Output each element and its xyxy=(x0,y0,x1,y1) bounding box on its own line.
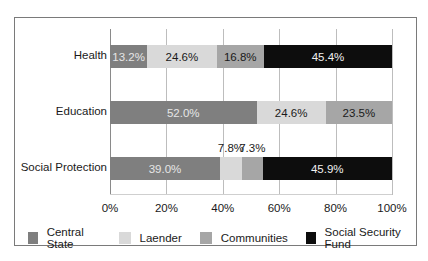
legend-swatch-social-security-fund xyxy=(306,232,316,244)
bar-segment-communities: 23.5% xyxy=(326,101,392,124)
x-tick-label: 100% xyxy=(377,202,406,214)
x-tick-label: 60% xyxy=(268,202,291,214)
legend-label: Central State xyxy=(47,226,101,250)
bar-segment-laender xyxy=(220,157,242,180)
bar-segment-central-state: 13.2% xyxy=(110,45,147,68)
stacked-bar: 13.2%24.6%16.8%45.4% xyxy=(110,45,392,68)
stacked-bar: 52.0%24.6%23.5% xyxy=(110,101,392,124)
x-axis-baseline xyxy=(110,194,392,195)
category-label: Health xyxy=(74,49,107,61)
bar-segment-communities: 16.8% xyxy=(217,45,264,68)
legend-item-communities: Communities xyxy=(200,232,288,244)
bar-segment-laender: 24.6% xyxy=(257,101,326,124)
x-tick-label: 20% xyxy=(155,202,178,214)
bar-segment-social-security-fund: 45.9% xyxy=(263,157,392,180)
legend-swatch-central-state xyxy=(28,232,38,244)
legend-swatch-laender xyxy=(119,232,131,244)
x-tick-label: 0% xyxy=(102,202,119,214)
bar-segment-communities xyxy=(242,157,263,180)
category-label: Education xyxy=(56,105,107,117)
bar-value-label: 7.3% xyxy=(239,142,265,154)
legend-label: Communities xyxy=(221,232,288,244)
stacked-bar: 39.0%45.9% xyxy=(110,157,392,180)
category-label: Social Protection xyxy=(21,161,107,173)
legend-label: Laender xyxy=(140,232,182,244)
bar-segment-social-security-fund: 45.4% xyxy=(264,45,392,68)
bar-segment-central-state: 39.0% xyxy=(110,157,220,180)
x-tick-label: 80% xyxy=(324,202,347,214)
legend-item-laender: Laender xyxy=(119,232,182,244)
bar-segment-central-state: 52.0% xyxy=(110,101,257,124)
gridline xyxy=(392,29,393,195)
legend-label: Social Security Fund xyxy=(325,226,410,250)
legend-item-central-state: Central State xyxy=(28,226,101,250)
legend-item-social-security-fund: Social Security Fund xyxy=(306,226,410,250)
legend-swatch-communities xyxy=(200,232,212,244)
chart-legend: Central State Laender Communities Social… xyxy=(28,226,428,250)
bar-segment-laender: 24.6% xyxy=(147,45,216,68)
x-tick-label: 40% xyxy=(211,202,234,214)
